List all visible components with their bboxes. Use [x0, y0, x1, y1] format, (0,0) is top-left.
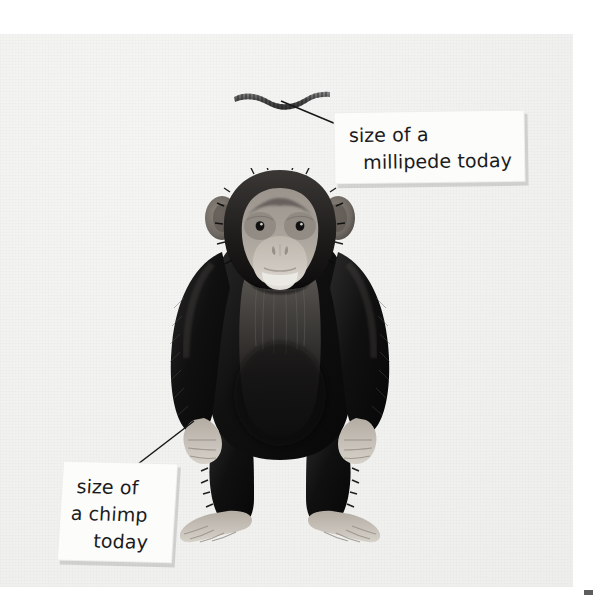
illustration-page: size of a millipede today size of a chim… — [0, 0, 596, 599]
chimp-eye-right — [296, 221, 305, 231]
chimp-eye-left — [256, 221, 265, 231]
callout-millipede-line-1: size of a — [349, 120, 512, 149]
millipede-illustration — [231, 88, 333, 112]
callout-chimp: size of a chimp today — [57, 461, 178, 564]
chimpanzee-illustration — [150, 168, 410, 544]
callout-chimp-line-3: today — [66, 527, 165, 556]
callout-chimp-line-1: size of — [70, 473, 169, 502]
corner-mark — [584, 590, 593, 595]
callout-chimp-line-2: a chimp — [68, 500, 167, 529]
chimp-feet — [180, 511, 380, 542]
callout-millipede: size of a millipede today — [334, 110, 526, 185]
callout-millipede-line-2: millipede today — [349, 147, 512, 176]
